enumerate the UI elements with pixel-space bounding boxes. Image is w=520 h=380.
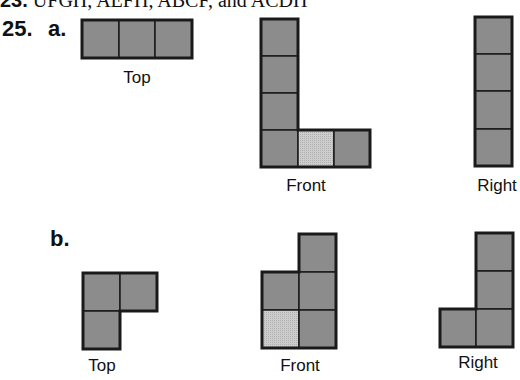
part-b-right-view-drawing [0,0,520,380]
part-b-right-label: Right [458,353,498,373]
